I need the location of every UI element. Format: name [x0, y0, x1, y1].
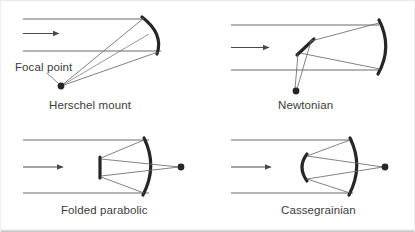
primary-mirror-arc [142, 17, 159, 54]
caption-cassegrainian: Cassegrainian [281, 204, 356, 216]
panel-folded-parabolic [23, 138, 184, 195]
primary-mirror-arc [143, 138, 151, 195]
primary-mirror-arc [349, 138, 357, 195]
folded-ray-left [295, 54, 298, 89]
panel-newtonian [231, 20, 386, 94]
caption-newtonian: Newtonian [278, 99, 333, 111]
caption-folded-parabolic: Folded parabolic [61, 204, 148, 216]
bottom-divider [1, 229, 415, 232]
exit-ray-bottom [307, 167, 383, 179]
primary-mirror-arc [378, 20, 386, 74]
exit-ray-top [307, 156, 383, 167]
converging-ray-top [101, 140, 144, 158]
reflected-ray-top [61, 18, 144, 86]
focal-point-dot [178, 164, 185, 171]
converging-ray-bottom [101, 177, 144, 193]
focal-point-annotation: Focal point [15, 61, 72, 73]
exit-ray-top [101, 159, 179, 167]
converging-ray-top [307, 140, 350, 156]
focal-point-dot [382, 164, 389, 171]
converging-ray-bottom [307, 179, 350, 193]
telescope-mirror-diagram: Focal point Herschel mount Newtonian Fol… [0, 0, 415, 232]
diagram-canvas [1, 1, 415, 232]
caption-herschel: Herschel mount [49, 99, 131, 111]
panel-herschel [23, 17, 161, 89]
converging-ray-top [311, 23, 379, 41]
focal-point-dot [293, 88, 300, 95]
focal-point-leader-line [47, 73, 59, 84]
exit-ray-bottom [101, 167, 179, 176]
focal-point-dot [58, 83, 65, 90]
panel-cassegrainian [231, 138, 388, 195]
converging-ray-bottom [300, 53, 380, 69]
secondary-flat-mirror [297, 39, 314, 55]
secondary-convex-mirror [302, 154, 307, 181]
